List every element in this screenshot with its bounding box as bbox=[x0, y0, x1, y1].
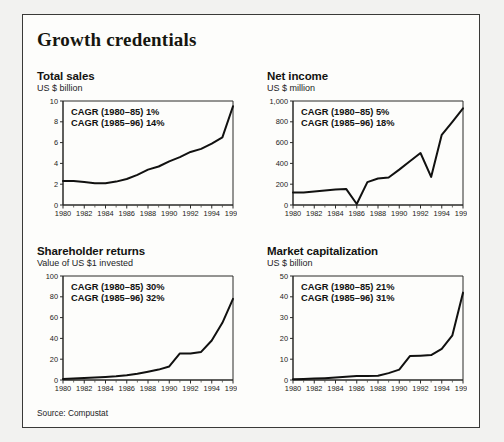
x-tick-label: 1992 bbox=[182, 384, 198, 393]
data-series-line bbox=[63, 299, 233, 379]
chart-panel-market-capitalization: Market capitalization US $ billion 01020… bbox=[267, 245, 467, 394]
x-tick-label: 1992 bbox=[182, 209, 198, 218]
x-tick-label: 1980 bbox=[285, 209, 301, 218]
chart-canvas-shareholder-returns: 0204060801001980198219841986198819901992… bbox=[37, 272, 237, 394]
x-tick-label: 1988 bbox=[370, 384, 386, 393]
y-tick-label: 200 bbox=[276, 180, 288, 189]
cagr-annotation: CAGR (1980–85) 21% bbox=[301, 282, 395, 292]
x-tick-label: 1994 bbox=[204, 384, 220, 393]
y-tick-label: 30 bbox=[280, 313, 288, 322]
page-title: Growth credentials bbox=[37, 29, 197, 51]
x-tick-label: 1980 bbox=[55, 209, 71, 218]
chart-title: Net income bbox=[267, 70, 467, 82]
line-chart-plot: 0204060801001980198219841986198819901992… bbox=[37, 272, 237, 394]
y-tick-label: 40 bbox=[280, 292, 288, 301]
y-tick-label: 80 bbox=[50, 292, 58, 301]
x-tick-label: 1984 bbox=[327, 209, 343, 218]
line-chart-plot: 0246810198019821984198619881990199219941… bbox=[37, 97, 237, 219]
y-tick-label: 40 bbox=[50, 334, 58, 343]
x-tick-label: 1990 bbox=[391, 209, 407, 218]
y-tick-label: 10 bbox=[50, 97, 58, 106]
cagr-annotation: CAGR (1980–85) 1% bbox=[71, 107, 160, 117]
figure-card: Growth credentials Total sales US $ bill… bbox=[22, 14, 480, 428]
chart-canvas-market-capitalization: 0102030405019801982198419861988199019921… bbox=[267, 272, 467, 394]
chart-subtitle: US $ billion bbox=[37, 83, 237, 94]
x-tick-label: 1982 bbox=[306, 209, 322, 218]
chart-title: Market capitalization bbox=[267, 245, 467, 257]
chart-panel-shareholder-returns: Shareholder returns Value of US $1 inves… bbox=[37, 245, 237, 394]
x-tick-label: 1984 bbox=[327, 384, 343, 393]
x-tick-label: 1984 bbox=[97, 209, 113, 218]
x-tick-label: 1986 bbox=[119, 209, 135, 218]
cagr-annotation: CAGR (1985–96) 14% bbox=[71, 118, 165, 128]
y-tick-label: 20 bbox=[280, 334, 288, 343]
chart-subtitle: Value of US $1 invested bbox=[37, 258, 237, 269]
chart-panel-net-income: Net income US $ million 02004006008001,0… bbox=[267, 70, 467, 219]
x-tick-label: 1986 bbox=[349, 384, 365, 393]
y-tick-label: 100 bbox=[46, 272, 58, 281]
x-tick-label: 1990 bbox=[391, 384, 407, 393]
y-tick-label: 600 bbox=[276, 138, 288, 147]
chart-panel-total-sales: Total sales US $ billion 024681019801982… bbox=[37, 70, 237, 219]
cagr-annotation: CAGR (1985–96) 32% bbox=[71, 293, 165, 303]
cagr-annotation: CAGR (1985–96) 31% bbox=[301, 293, 395, 303]
y-tick-label: 60 bbox=[50, 313, 58, 322]
chart-canvas-total-sales: 0246810198019821984198619881990199219941… bbox=[37, 97, 237, 219]
x-tick-label: 1984 bbox=[97, 384, 113, 393]
chart-title: Total sales bbox=[37, 70, 237, 82]
x-tick-label: 1988 bbox=[370, 209, 386, 218]
cagr-annotation: CAGR (1980–85) 5% bbox=[301, 107, 390, 117]
x-tick-label: 1980 bbox=[55, 384, 71, 393]
x-tick-label: 1992 bbox=[412, 209, 428, 218]
x-tick-label: 1996 bbox=[225, 209, 237, 218]
x-tick-label: 1996 bbox=[225, 384, 237, 393]
x-tick-label: 1986 bbox=[349, 209, 365, 218]
x-tick-label: 1996 bbox=[455, 209, 467, 218]
y-tick-label: 400 bbox=[276, 159, 288, 168]
chart-title: Shareholder returns bbox=[37, 245, 237, 257]
x-tick-label: 1980 bbox=[285, 384, 301, 393]
x-tick-label: 1990 bbox=[161, 384, 177, 393]
line-chart-plot: 0102030405019801982198419861988199019921… bbox=[267, 272, 467, 394]
x-tick-label: 1982 bbox=[76, 384, 92, 393]
x-tick-label: 1990 bbox=[161, 209, 177, 218]
x-tick-label: 1992 bbox=[412, 384, 428, 393]
chart-canvas-net-income: 02004006008001,0001980198219841986198819… bbox=[267, 97, 467, 219]
cagr-annotation: CAGR (1980–85) 30% bbox=[71, 282, 165, 292]
x-tick-label: 1988 bbox=[140, 209, 156, 218]
y-tick-label: 4 bbox=[54, 159, 58, 168]
y-tick-label: 20 bbox=[50, 355, 58, 364]
data-series-line bbox=[293, 293, 463, 380]
line-chart-plot: 02004006008001,0001980198219841986198819… bbox=[267, 97, 467, 219]
y-tick-label: 50 bbox=[280, 272, 288, 281]
source-note: Source: Compustat bbox=[37, 408, 108, 418]
cagr-annotation: CAGR (1985–96) 18% bbox=[301, 118, 395, 128]
x-tick-label: 1994 bbox=[434, 384, 450, 393]
y-tick-label: 800 bbox=[276, 117, 288, 126]
x-tick-label: 1988 bbox=[140, 384, 156, 393]
chart-subtitle: US $ billion bbox=[267, 258, 467, 269]
x-tick-label: 1996 bbox=[455, 384, 467, 393]
y-tick-label: 1,000 bbox=[270, 97, 289, 106]
chart-subtitle: US $ million bbox=[267, 83, 467, 94]
x-tick-label: 1982 bbox=[306, 384, 322, 393]
y-tick-label: 2 bbox=[54, 180, 58, 189]
y-tick-label: 8 bbox=[54, 117, 58, 126]
y-tick-label: 10 bbox=[280, 355, 288, 364]
x-tick-label: 1986 bbox=[119, 384, 135, 393]
y-tick-label: 6 bbox=[54, 138, 58, 147]
x-tick-label: 1994 bbox=[434, 209, 450, 218]
x-tick-label: 1982 bbox=[76, 209, 92, 218]
x-tick-label: 1994 bbox=[204, 209, 220, 218]
